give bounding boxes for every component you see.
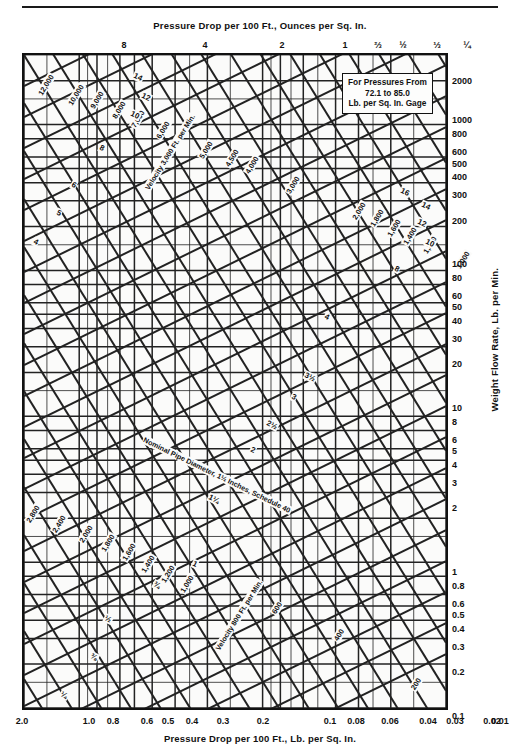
top-tick-1: 4 bbox=[202, 40, 207, 50]
bottom-tick-0: 2.0 bbox=[16, 716, 29, 726]
top-rule bbox=[22, 6, 498, 8]
bottom-axis-title: Pressure Drop per 100 Ft., Lb. per Sq. I… bbox=[0, 733, 520, 744]
right-tick-29: 0.1 bbox=[452, 711, 465, 721]
right-tick-5: 400 bbox=[452, 172, 467, 182]
right-tick-15: 10 bbox=[452, 403, 462, 413]
top-tick-5: ½ bbox=[399, 40, 407, 50]
right-tick-11: 50 bbox=[452, 302, 462, 312]
note-line-2: 72.1 to 85.0 bbox=[348, 88, 427, 99]
right-tick-9: 80 bbox=[452, 273, 462, 283]
bottom-tick-7: 0.2 bbox=[257, 716, 270, 726]
right-tick-20: 3 bbox=[452, 478, 457, 488]
bottom-tick-2: 0.8 bbox=[107, 716, 120, 726]
right-tick-17: 6 bbox=[452, 435, 457, 445]
right-tick-8: 100 bbox=[452, 259, 467, 269]
bottom-tick-5: 0.4 bbox=[186, 716, 199, 726]
bottom-tick-6: 0.3 bbox=[217, 716, 230, 726]
bottom-tick-11: 0.04 bbox=[419, 716, 437, 726]
right-tick-27: 0.3 bbox=[452, 642, 465, 652]
right-tick-18: 5 bbox=[452, 446, 457, 456]
right-tick-14: 20 bbox=[452, 359, 462, 369]
top-tick-3: 1 bbox=[342, 40, 347, 50]
right-tick-4: 500 bbox=[452, 159, 467, 169]
right-axis-title: Weight Flow Rate, Lb. per Min. bbox=[489, 268, 500, 412]
right-tick-23: 0.8 bbox=[452, 581, 465, 591]
top-axis-title: Pressure Drop per 100 Ft., Ounces per Sq… bbox=[0, 20, 520, 31]
top-tick-4: ⅔ bbox=[374, 40, 382, 50]
right-tick-2: 800 bbox=[452, 129, 467, 139]
right-tick-21: 2 bbox=[452, 503, 457, 513]
bottom-tick-3: 0.6 bbox=[141, 716, 154, 726]
right-tick-7: 200 bbox=[452, 216, 467, 226]
top-tick-7: ¼ bbox=[463, 40, 471, 50]
bottom-tick-14: 0.01 bbox=[491, 716, 509, 726]
right-tick-13: 30 bbox=[452, 334, 462, 344]
top-tick-0: 8 bbox=[121, 40, 126, 50]
right-tick-3: 600 bbox=[452, 147, 467, 157]
note-line-1: For Pressures From bbox=[348, 77, 427, 88]
chart-plot-area[interactable]: 12,00010,0009,0008,0007,0006,0005,0004,5… bbox=[22, 53, 448, 710]
top-tick-6: ⅓ bbox=[433, 40, 441, 50]
bottom-tick-1: 1.0 bbox=[83, 716, 96, 726]
right-tick-6: 300 bbox=[452, 190, 467, 200]
right-tick-19: 4 bbox=[452, 460, 457, 470]
bottom-tick-8: 0.1 bbox=[324, 716, 337, 726]
top-tick-2: 2 bbox=[279, 40, 284, 50]
right-tick-16: 8 bbox=[452, 417, 457, 427]
bottom-tick-10: 0.06 bbox=[381, 716, 399, 726]
right-tick-10: 60 bbox=[452, 291, 462, 301]
right-tick-1: 1000 bbox=[452, 115, 472, 125]
right-tick-24: 0.6 bbox=[452, 599, 465, 609]
pressure-range-note: For Pressures From 72.1 to 85.0 Lb. per … bbox=[342, 73, 433, 114]
right-tick-12: 40 bbox=[452, 316, 462, 326]
right-tick-28: 0.2 bbox=[452, 667, 465, 677]
note-line-3: Lb. per Sq. In. Gage bbox=[348, 98, 427, 109]
bottom-tick-4: 0.5 bbox=[162, 716, 175, 726]
right-tick-25: 0.5 bbox=[452, 610, 465, 620]
right-tick-0: 2000 bbox=[452, 76, 472, 86]
bottom-tick-9: 0.08 bbox=[347, 716, 365, 726]
right-tick-22: 1 bbox=[452, 567, 457, 577]
right-tick-26: 0.4 bbox=[452, 624, 465, 634]
